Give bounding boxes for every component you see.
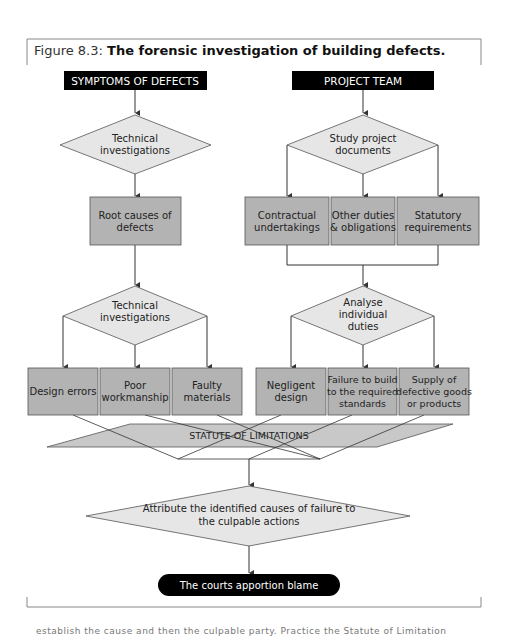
svg-text:investigations: investigations — [100, 145, 170, 156]
decision-analyse-individual-duties: Analyse individual duties — [291, 286, 434, 345]
merge-line — [287, 245, 438, 265]
header-project-team: PROJECT TEAM — [292, 71, 434, 90]
decision-technical-investigations-2: Technical investigations — [63, 286, 207, 345]
svg-text:Failure to build: Failure to build — [327, 374, 397, 385]
outcome-negligent-design: Negligent design — [256, 368, 326, 415]
svg-text:to the required: to the required — [327, 386, 398, 397]
process-root-causes: Root causes of defects — [90, 197, 181, 245]
svg-text:Supply of: Supply of — [412, 374, 457, 385]
statute-of-limitations: STATUTE OF LIMITATIONS — [47, 424, 453, 447]
svg-text:Poor: Poor — [124, 380, 147, 391]
svg-text:investigations: investigations — [100, 312, 170, 323]
svg-text:Technical: Technical — [111, 133, 158, 144]
svg-text:materials: materials — [184, 392, 231, 403]
header-symptoms-label: SYMPTOMS OF DEFECTS — [71, 75, 199, 87]
terminal-courts-apportion-blame: The courts apportion blame — [158, 574, 340, 596]
svg-text:individual: individual — [339, 309, 388, 320]
body-text-fragment: establish the cause and then the culpabl… — [36, 626, 476, 636]
svg-text:Study project: Study project — [330, 133, 397, 144]
svg-text:Analyse: Analyse — [343, 297, 382, 308]
outcome-supply-defective-goods: Supply of defective goods or products — [396, 368, 472, 415]
outcome-design-errors: Design errors — [28, 368, 98, 415]
svg-text:design: design — [274, 392, 307, 403]
decision-technical-investigations-1: Technical investigations — [60, 115, 211, 174]
svg-text:Negligent: Negligent — [267, 380, 315, 391]
process-other-duties: Other duties & obligations — [330, 197, 396, 245]
svg-text:undertakings: undertakings — [254, 222, 320, 233]
svg-text:Technical: Technical — [111, 300, 158, 311]
svg-text:Statutory: Statutory — [415, 210, 462, 221]
decision-study-project-documents: Study project documents — [287, 115, 438, 174]
process-statutory-requirements: Statutory requirements — [397, 197, 479, 245]
header-project-team-label: PROJECT TEAM — [324, 75, 402, 87]
svg-text:duties: duties — [348, 321, 379, 332]
svg-text:the culpable actions: the culpable actions — [198, 516, 299, 527]
svg-text:Faulty: Faulty — [192, 380, 222, 391]
svg-text:& obligations: & obligations — [330, 222, 396, 233]
svg-text:or products: or products — [407, 398, 461, 409]
header-symptoms: SYMPTOMS OF DEFECTS — [64, 71, 207, 90]
svg-text:Attribute the identified cause: Attribute the identified causes of failu… — [143, 503, 356, 514]
svg-text:Root causes of: Root causes of — [98, 210, 172, 221]
outcome-failure-to-build: Failure to build to the required standar… — [327, 368, 398, 415]
svg-text:defects: defects — [117, 222, 154, 233]
svg-text:defective goods: defective goods — [396, 386, 472, 397]
svg-text:Other duties: Other duties — [332, 210, 394, 221]
flowchart: SYMPTOMS OF DEFECTS PROJECT TEAM Technic… — [0, 0, 505, 636]
terminal-label: The courts apportion blame — [179, 580, 319, 591]
svg-text:workmanship: workmanship — [101, 392, 168, 403]
outcome-poor-workmanship: Poor workmanship — [100, 368, 170, 415]
decision-attribute-causes: Attribute the identified causes of failu… — [86, 486, 410, 546]
statute-label: STATUTE OF LIMITATIONS — [189, 430, 309, 441]
svg-text:Contractual: Contractual — [258, 210, 316, 221]
outcome-faulty-materials: Faulty materials — [172, 368, 242, 415]
svg-text:documents: documents — [335, 145, 391, 156]
svg-text:requirements: requirements — [405, 222, 472, 233]
svg-text:standards: standards — [339, 398, 386, 409]
process-contractual-undertakings: Contractual undertakings — [245, 197, 329, 245]
svg-text:Design errors: Design errors — [29, 386, 96, 397]
